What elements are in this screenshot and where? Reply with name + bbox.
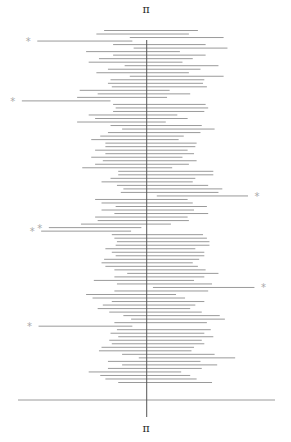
top-pi-label: π [142, 3, 149, 16]
miss-marker: * [255, 191, 260, 202]
interval-group: ******* [10, 31, 266, 383]
miss-marker: * [10, 96, 15, 107]
miss-marker: * [26, 36, 31, 47]
miss-marker: * [30, 226, 35, 237]
bottom-pi-label: π [142, 422, 149, 435]
interval-chart: π ******* π [0, 0, 291, 442]
miss-marker: * [27, 321, 32, 332]
miss-marker: * [261, 282, 266, 293]
miss-marker: * [37, 223, 42, 234]
